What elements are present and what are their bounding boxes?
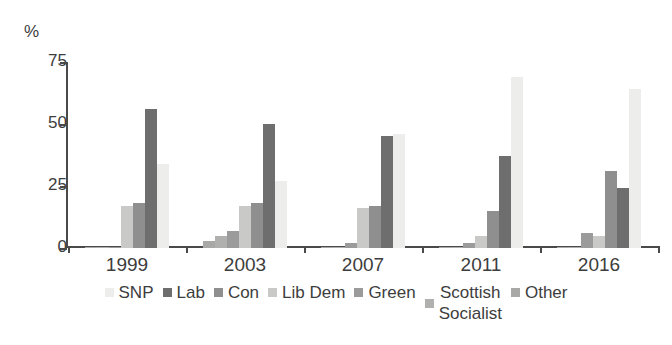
bar (475, 236, 487, 248)
x-tick-mark (304, 246, 306, 253)
bar (251, 203, 263, 248)
legend-swatch-icon (105, 288, 114, 297)
bar (275, 181, 287, 248)
bar (109, 247, 121, 248)
bar (369, 206, 381, 248)
y-tick-label: 0 (15, 237, 67, 257)
legend-item[interactable]: Scottish Socialist (425, 282, 502, 324)
x-axis-label: 2003 (190, 254, 300, 276)
bar (487, 211, 499, 248)
bar-group (186, 62, 304, 248)
legend-item[interactable]: Other (511, 282, 568, 303)
bar-group (540, 62, 658, 248)
bar (215, 236, 227, 248)
legend-label: Scottish Socialist (439, 282, 502, 324)
bar (157, 164, 169, 248)
bar (557, 247, 569, 248)
bar (333, 247, 345, 248)
legend-item[interactable]: Green (354, 282, 415, 303)
bar (463, 243, 475, 248)
legend-item[interactable]: SNP (105, 282, 154, 303)
chart-legend: SNPLabConLib DemGreenScottish SocialistO… (0, 282, 672, 324)
x-tick-mark (68, 246, 70, 253)
legend-swatch-icon (354, 288, 363, 297)
x-tick-mark (540, 246, 542, 253)
legend-label: Green (368, 282, 415, 303)
legend-label: Lab (177, 282, 205, 303)
legend-swatch-icon (214, 288, 223, 297)
legend-item[interactable]: Lab (163, 282, 205, 303)
legend-label: SNP (119, 282, 154, 303)
bar-chart: % 7550250 19992003200720112016 SNPLabCon… (0, 0, 672, 345)
bar (85, 247, 97, 248)
bar (581, 233, 593, 248)
bar (203, 241, 215, 248)
x-axis-label: 2016 (544, 254, 654, 276)
bar (97, 247, 109, 248)
bar (345, 243, 357, 248)
bar (511, 77, 523, 248)
bar (121, 206, 133, 248)
bar (617, 188, 629, 248)
bar (321, 247, 333, 248)
y-tick-label: 50 (15, 113, 67, 133)
bar (357, 208, 369, 248)
bar (439, 247, 451, 248)
x-tick-mark (422, 246, 424, 253)
bar (629, 89, 641, 248)
legend-item[interactable]: Con (214, 282, 259, 303)
legend-item[interactable]: Lib Dem (268, 282, 345, 303)
bar (593, 236, 605, 248)
bar (381, 136, 393, 248)
bar (227, 231, 239, 248)
bar-group (422, 62, 540, 248)
bar (569, 247, 581, 248)
bar (263, 124, 275, 248)
x-tick-mark (658, 246, 660, 253)
legend-swatch-icon (163, 288, 172, 297)
bar (451, 247, 463, 248)
y-tick-label: 75 (15, 51, 67, 71)
y-tick-mark (60, 248, 67, 250)
legend-swatch-icon (511, 288, 520, 297)
bar (145, 109, 157, 248)
bar-group (68, 62, 186, 248)
plot-area (68, 62, 658, 248)
bar (605, 171, 617, 248)
x-axis-label: 2011 (426, 254, 536, 276)
bar (239, 206, 251, 248)
bar (499, 156, 511, 248)
legend-label: Other (525, 282, 568, 303)
x-tick-mark (186, 246, 188, 253)
bar (133, 203, 145, 248)
y-tick-label: 25 (15, 175, 67, 195)
legend-label: Lib Dem (282, 282, 345, 303)
legend-swatch-icon (425, 299, 434, 308)
x-axis-label: 1999 (72, 254, 182, 276)
legend-swatch-icon (268, 288, 277, 297)
bar (393, 134, 405, 248)
x-axis-label: 2007 (308, 254, 418, 276)
y-axis-unit-label: % (24, 22, 39, 42)
bar-group (304, 62, 422, 248)
legend-label: Con (228, 282, 259, 303)
